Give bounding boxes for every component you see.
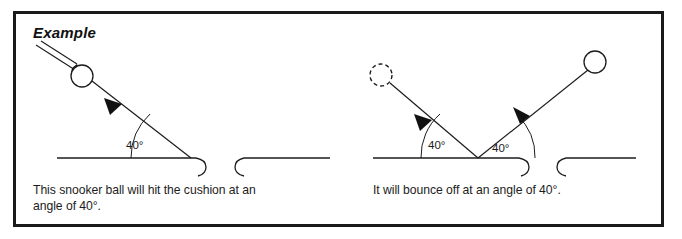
page-root: Example [0,0,682,239]
left-angle-label: 40° [126,139,143,151]
left-snooker-ball [71,65,93,87]
right-pocket-curve-a [519,158,529,176]
right-ghost-ball [370,64,392,86]
left-trajectory-arrowhead [104,98,122,115]
right-snooker-ball [584,51,606,73]
right-incoming-angle-label: 40° [428,139,445,151]
left-angle-arc [131,114,150,158]
left-panel-diagram [57,65,330,176]
left-panel-caption: This snooker ball will hit the cushion a… [33,183,283,214]
right-panel-caption: It will bounce off at an angle of 40°. [373,183,653,199]
right-outgoing-angle-label: 40° [492,142,509,154]
right-outgoing-arrowhead [513,107,530,124]
right-panel-diagram [370,51,636,176]
left-pocket-curve-a [196,158,206,176]
left-pocket-curve-b [235,158,244,176]
right-pocket-curve-b [557,158,566,176]
